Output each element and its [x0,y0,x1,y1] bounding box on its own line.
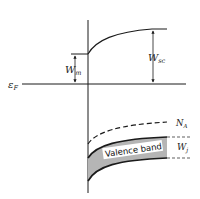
wj-label: Wj [177,142,188,154]
band-diagram: εF Wm Wsc NA Valence band Wj [0,0,200,199]
wm-label: Wm [65,64,81,77]
fermi-level-label: εF [8,79,18,92]
acceptor-label: NA [175,118,187,129]
wsc-label: Wsc [148,52,166,65]
surface-band-curve [88,29,167,54]
